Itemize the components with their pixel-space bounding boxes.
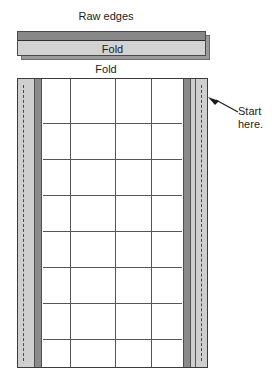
- raw-edges-label: Raw edges: [0, 10, 212, 23]
- grid-column-line-4: [195, 79, 196, 367]
- grid-row-line-4: [43, 231, 182, 232]
- stitch-line-right: [201, 85, 202, 361]
- folded-strip: Fold: [17, 31, 210, 60]
- fabric-panel: [17, 78, 208, 368]
- grid-row-line-1: [43, 123, 182, 124]
- seam-band-left: [34, 79, 42, 367]
- grid-row-line-3: [43, 195, 182, 196]
- start-here-arrow-icon: [206, 96, 240, 118]
- selvage-right: [191, 79, 207, 367]
- panel-grid: [43, 79, 182, 367]
- grid-row-line-7: [43, 339, 182, 340]
- selvage-left: [18, 79, 34, 367]
- strip-raw-edge-band: [18, 32, 205, 41]
- strip-fold-label: Fold: [18, 42, 207, 57]
- sewing-diagram: Raw edges Fold Fold Start here.: [0, 0, 272, 381]
- seam-band-right: [183, 79, 191, 367]
- grid-row-line-2: [43, 159, 182, 160]
- stitch-line-left: [23, 85, 24, 361]
- fold-caption-label: Fold: [0, 63, 212, 76]
- grid-row-line-6: [43, 303, 182, 304]
- grid-row-line-5: [43, 267, 182, 268]
- strip-front-face: Fold: [17, 31, 206, 56]
- start-here-label: Start here.: [238, 105, 272, 131]
